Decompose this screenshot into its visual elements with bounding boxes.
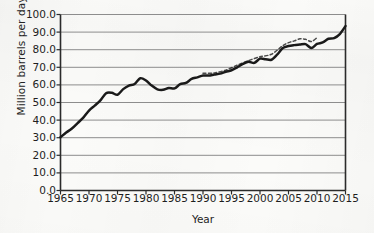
x-tick-label: 2015 [326,193,366,204]
gridlines [61,15,346,173]
series-line-2 [203,38,317,74]
chart-figure: Million barrels per day Year 0.010.020.0… [0,0,374,233]
